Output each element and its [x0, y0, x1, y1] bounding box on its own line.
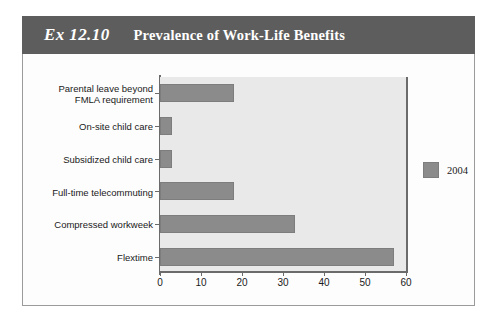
legend-label-2004: 2004 — [447, 165, 468, 176]
bar — [160, 215, 295, 233]
exhibit-number: Ex 12.10 — [44, 25, 110, 45]
exhibit-header: Ex 12.10 Prevalence of Work-Life Benefit… — [22, 16, 475, 54]
category-label: Compressed workweek — [28, 219, 160, 231]
category-label-line: Subsidized child care — [28, 154, 153, 166]
category-label-line: Parental leave beyond — [28, 83, 153, 95]
category-label-line: Full-time telecommuting — [28, 187, 153, 199]
category-label: Parental leave beyondFMLA requirement — [28, 83, 160, 106]
x-axis-label: 50 — [359, 277, 370, 288]
bar — [160, 84, 234, 102]
category-label-line: Flextime — [28, 252, 153, 264]
category-label-line: On-site child care — [28, 121, 153, 133]
x-axis-tick — [242, 271, 243, 276]
category-label-line: FMLA requirement — [28, 94, 153, 106]
x-axis-tick — [283, 271, 284, 276]
category-label: Full-time telecommuting — [28, 187, 160, 199]
x-axis-label: 10 — [195, 277, 206, 288]
bar-row: Compressed workweek — [160, 208, 406, 241]
chart-canvas: Parental leave beyondFMLA requirementOn-… — [23, 54, 474, 305]
bar — [160, 150, 172, 168]
bar-row: On-site child care — [160, 110, 406, 143]
x-axis-tick — [160, 271, 161, 276]
chart-legend: 2004 — [423, 162, 468, 178]
x-axis-label: 0 — [157, 277, 163, 288]
plot-area: Parental leave beyondFMLA requirementOn-… — [160, 77, 408, 273]
category-label-line: Compressed workweek — [28, 219, 153, 231]
exhibit-title: Prevalence of Work-Life Benefits — [134, 27, 346, 44]
x-axis-label: 60 — [400, 277, 411, 288]
x-axis-tick — [406, 271, 407, 276]
x-axis-tick — [324, 271, 325, 276]
bar-row: Parental leave beyondFMLA requirement — [160, 77, 406, 110]
x-axis-label: 40 — [318, 277, 329, 288]
x-axis-tick — [365, 271, 366, 276]
bar — [160, 248, 394, 266]
legend-swatch-2004 — [423, 162, 439, 178]
bar-row: Subsidized child care — [160, 142, 406, 175]
bar — [160, 182, 234, 200]
bar-row: Full-time telecommuting — [160, 175, 406, 208]
x-axis-tick — [201, 271, 202, 276]
category-label: Flextime — [28, 252, 160, 264]
bar-row: Flextime — [160, 240, 406, 273]
x-axis-label: 20 — [236, 277, 247, 288]
category-label: Subsidized child care — [28, 154, 160, 166]
x-axis-label: 30 — [277, 277, 288, 288]
category-label: On-site child care — [28, 121, 160, 133]
bar — [160, 117, 172, 135]
